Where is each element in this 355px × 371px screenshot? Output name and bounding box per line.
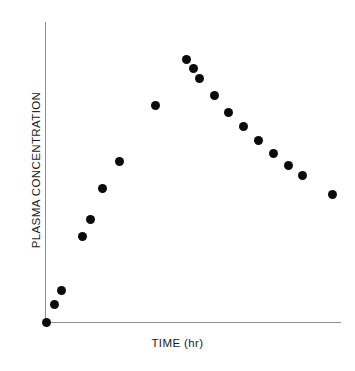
- data-point: [98, 184, 107, 193]
- data-point: [328, 190, 337, 199]
- data-point: [254, 136, 263, 145]
- x-axis-title: TIME (hr): [0, 337, 355, 349]
- data-point: [239, 122, 248, 131]
- data-point: [115, 157, 124, 166]
- data-points-layer: [0, 0, 355, 371]
- data-point: [298, 171, 307, 180]
- data-point: [182, 55, 191, 64]
- data-point: [151, 101, 160, 110]
- data-point: [269, 149, 278, 158]
- data-point: [86, 215, 95, 224]
- data-point: [224, 108, 233, 117]
- data-point: [210, 91, 219, 100]
- y-axis-title: PLASMA CONCENTRATION: [30, 20, 42, 320]
- data-point: [195, 74, 204, 83]
- data-point: [57, 286, 66, 295]
- data-point: [78, 232, 87, 241]
- plasma-concentration-scatter-chart: PLASMA CONCENTRATION TIME (hr): [0, 0, 355, 371]
- data-point: [284, 161, 293, 170]
- data-point: [42, 318, 51, 327]
- data-point: [50, 300, 59, 309]
- data-point: [189, 64, 198, 73]
